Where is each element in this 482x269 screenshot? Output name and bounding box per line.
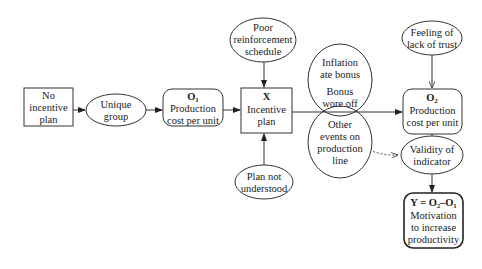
node-label: incentive xyxy=(29,102,68,113)
node-plan-not-understood: Plan not understood xyxy=(235,165,293,199)
node-label: understood xyxy=(241,183,288,194)
node-label: Plan not xyxy=(247,171,282,182)
node-label: indicator xyxy=(413,156,451,167)
node-title: X xyxy=(263,91,271,102)
node-y-motivation: Y = O₂–O₁ Motivation to increase product… xyxy=(404,193,463,248)
node-unique-group: Unique group xyxy=(86,94,146,126)
node-label: Motivation xyxy=(410,210,457,221)
diagram-canvas: No incentive plan Unique group O1 Produc… xyxy=(0,0,482,269)
node-label: plan xyxy=(257,116,276,127)
node-label: schedule xyxy=(245,46,282,57)
node-label: line xyxy=(332,155,348,166)
node-label: Production xyxy=(409,105,456,116)
node-label: reinforcement xyxy=(234,34,293,45)
node-o2-production-cost: O2 Production cost per unit xyxy=(403,89,462,134)
node-label: to increase xyxy=(411,222,457,233)
node-label: Unique xyxy=(101,99,132,110)
node-label: wore off xyxy=(322,98,358,109)
node-label: Other xyxy=(328,119,352,130)
edge-other-events-to-validity xyxy=(369,150,398,155)
node-poor-reinforcement-schedule: Poor reinforcement schedule xyxy=(230,18,296,62)
node-label: productivity xyxy=(408,234,460,245)
node-label: Inflation xyxy=(322,57,359,68)
node-label: ate bonus xyxy=(320,69,360,80)
node-label: events on xyxy=(320,131,361,142)
node-label: lack of trust xyxy=(407,39,457,50)
node-validity-of-indicator: Validity of indicator xyxy=(401,136,463,174)
node-label: group xyxy=(104,111,129,122)
node-label: Feeling of xyxy=(411,27,454,38)
node-label: Production xyxy=(170,103,217,114)
node-label: cost per unit xyxy=(407,117,459,128)
node-other-events-on-production-line: Other events on production line xyxy=(308,106,372,178)
node-no-incentive-plan: No incentive plan xyxy=(24,88,73,126)
node-label: cost per unit xyxy=(167,115,219,126)
node-label: plan xyxy=(39,114,58,125)
node-label: Bonus xyxy=(327,86,354,97)
node-label: No xyxy=(42,90,55,101)
node-feeling-lack-of-trust: Feeling of lack of trust xyxy=(402,21,462,55)
node-label: Validity of xyxy=(410,144,455,155)
node-label: production xyxy=(317,143,363,154)
node-title: Y = O₂–O₁ xyxy=(410,197,456,208)
node-inflation-bonus-wore-off: Inflation ate bonus Bonus wore off xyxy=(308,44,372,116)
node-label: Poor xyxy=(253,22,273,33)
node-x-incentive-plan: X Incentive plan xyxy=(241,88,292,133)
node-label: Incentive xyxy=(247,104,286,115)
node-o1-production-cost: O1 Production cost per unit xyxy=(163,89,223,126)
